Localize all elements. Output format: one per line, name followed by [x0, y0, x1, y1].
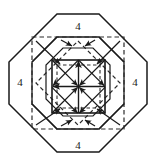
cell-tr-diag-a — [79, 60, 105, 86]
connector-top-left — [61, 40, 72, 46]
cell-tl-diag-a — [52, 60, 78, 86]
connector-bottom-right — [85, 120, 95, 126]
connector-bottom-left — [61, 120, 72, 126]
label-left: 4 — [17, 76, 23, 88]
label-top: 4 — [75, 20, 81, 32]
connector-top-right — [85, 40, 95, 46]
diag-bl — [32, 104, 57, 129]
label-right: 4 — [132, 76, 138, 88]
ext-arrow-tr — [97, 41, 120, 64]
figure-canvas: 4 4 4 4 — [0, 0, 155, 163]
geometry-figure: 4 4 4 4 — [0, 0, 155, 163]
ext-arrow-tl — [36, 41, 60, 64]
label-bottom: 4 — [75, 139, 81, 151]
diag-br — [99, 104, 124, 129]
